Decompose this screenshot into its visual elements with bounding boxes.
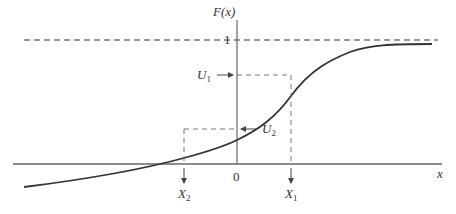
- x-axis-label: x: [436, 166, 443, 181]
- x1-label: X1: [284, 186, 297, 203]
- u1-label: U1: [197, 67, 211, 84]
- u2-label: U2: [262, 121, 276, 138]
- y-axis-label: F(x): [212, 4, 235, 19]
- inverse-transform-diagram: F(x) 1 0 x U1 U2 X1 X2: [0, 0, 456, 214]
- one-label: 1: [224, 32, 231, 47]
- cdf-curve: [24, 44, 432, 187]
- origin-label: 0: [233, 169, 240, 184]
- x2-label: X2: [177, 186, 190, 203]
